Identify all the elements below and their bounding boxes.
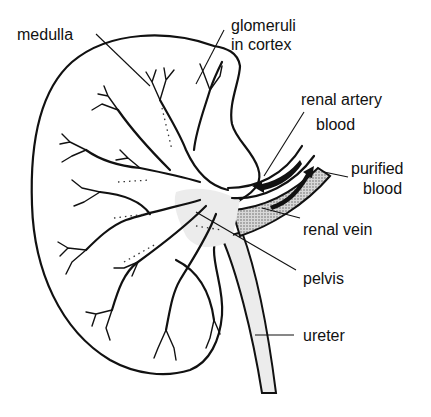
renal-artery (228, 146, 302, 188)
label-glomeruli: glomeruli (231, 17, 296, 34)
label-in-cortex: in cortex (231, 36, 291, 53)
leader-medulla (96, 34, 150, 86)
ureter (222, 232, 276, 393)
label-blood: blood (316, 116, 355, 133)
label-renal-artery: renal artery (301, 91, 382, 108)
label-pelvis: pelvis (303, 270, 344, 287)
renal-pelvis (175, 189, 240, 247)
label-purified: purified (351, 160, 403, 177)
label-purified-blood: blood (363, 180, 402, 197)
kidney-diagram (0, 0, 431, 417)
label-medulla: medulla (17, 26, 73, 43)
label-ureter: ureter (303, 327, 345, 344)
label-renal-vein: renal vein (303, 221, 372, 238)
